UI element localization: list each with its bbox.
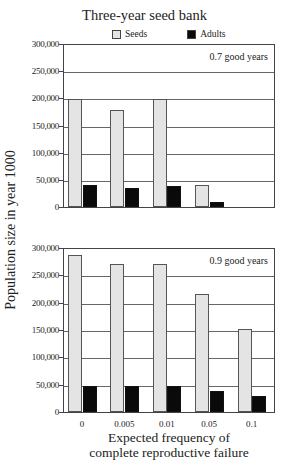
y-tick-label: 100,000: [32, 148, 59, 158]
bar-adults: [210, 391, 224, 412]
gridline: [64, 276, 274, 277]
chart-panel-2: 0.9 good years: [63, 248, 275, 413]
x-tick-label: 0.1: [246, 419, 257, 429]
y-tick-label: 100,000: [32, 352, 59, 362]
bar-seeds: [68, 99, 82, 207]
y-tick-label: 300,000: [32, 243, 59, 253]
bar-adults: [167, 186, 181, 207]
gridline: [64, 99, 274, 100]
y-tick-label: 250,000: [32, 66, 59, 76]
y-tick-label: 50,000: [36, 175, 59, 185]
x-axis-label-line1: Expected frequency of: [63, 430, 275, 445]
bar-seeds: [195, 294, 209, 412]
y-tick-mark: [59, 412, 63, 413]
bar-adults: [125, 188, 139, 207]
legend-label-adults: Adults: [200, 29, 225, 39]
legend: Seeds Adults: [112, 29, 226, 39]
bar-seeds: [110, 110, 124, 207]
y-tick-mark: [59, 303, 63, 304]
y-tick-mark: [59, 330, 63, 331]
y-tick-mark: [59, 153, 63, 154]
bar-adults: [167, 386, 181, 412]
x-tick-label: 0: [80, 419, 85, 429]
y-tick-mark: [59, 248, 63, 249]
bar-seeds: [195, 185, 209, 207]
y-tick-mark: [59, 385, 63, 386]
y-tick-mark: [59, 126, 63, 127]
panel-label: 0.7 good years: [209, 51, 268, 62]
legend-item-seeds: Seeds: [112, 29, 147, 39]
bar-adults: [210, 202, 224, 207]
bar-adults: [252, 396, 266, 412]
legend-item-adults: Adults: [187, 29, 225, 39]
gridline: [64, 127, 274, 128]
gridline: [64, 154, 274, 155]
x-axis-label-line2: complete reproductive failure: [63, 445, 275, 460]
y-tick-label: 200,000: [32, 298, 59, 308]
y-tick-mark: [59, 44, 63, 45]
bar-adults: [125, 386, 139, 412]
bar-seeds: [153, 264, 167, 412]
bar-adults: [83, 386, 97, 412]
gridline: [64, 72, 274, 73]
bar-seeds: [238, 329, 252, 412]
panel-label: 0.9 good years: [209, 255, 268, 266]
bar-adults: [83, 185, 97, 207]
x-axis-label: Expected frequency of complete reproduct…: [63, 430, 275, 460]
x-tick-label: 0.005: [114, 419, 134, 429]
bar-seeds: [68, 255, 82, 412]
seeds-swatch-icon: [112, 30, 121, 39]
x-tick-label: 0.01: [159, 419, 175, 429]
y-tick-label: 300,000: [32, 39, 59, 49]
y-axis-label: Population size in year 1000: [3, 150, 19, 309]
gridline: [64, 181, 274, 182]
legend-label-seeds: Seeds: [125, 29, 147, 39]
y-tick-label: 250,000: [32, 270, 59, 280]
y-tick-label: 50,000: [36, 380, 59, 390]
y-tick-mark: [59, 357, 63, 358]
adults-swatch-icon: [187, 30, 196, 39]
y-tick-mark: [59, 275, 63, 276]
gridline: [64, 304, 274, 305]
y-tick-label: 150,000: [32, 121, 59, 131]
y-tick-label: 150,000: [32, 325, 59, 335]
y-tick-label: 200,000: [32, 93, 59, 103]
y-tick-mark: [59, 98, 63, 99]
chart-title: Three-year seed bank: [0, 7, 289, 24]
y-tick-mark: [59, 207, 63, 208]
y-tick-mark: [59, 180, 63, 181]
chart-panel-1: 0.7 good years: [63, 44, 275, 208]
bar-seeds: [110, 264, 124, 412]
x-tick-label: 0.05: [201, 419, 217, 429]
y-tick-mark: [59, 71, 63, 72]
bar-seeds: [153, 99, 167, 207]
